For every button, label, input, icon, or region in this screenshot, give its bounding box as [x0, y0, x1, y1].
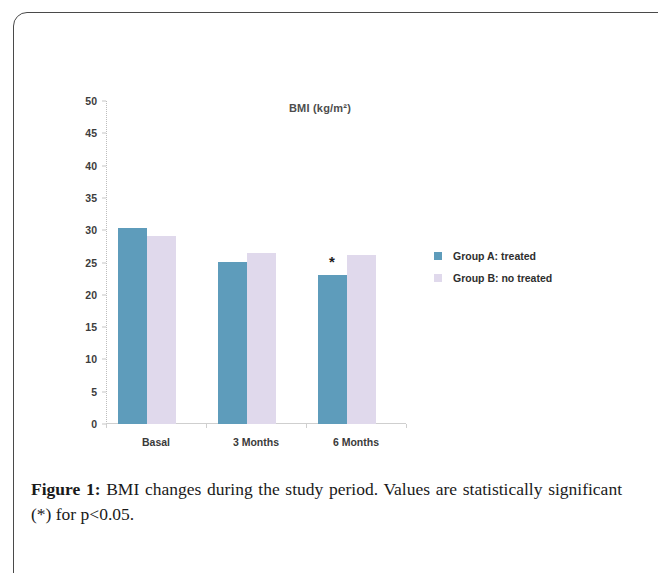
- y-axis-tick-label: 5: [91, 386, 97, 398]
- figure-1: BMI (kg/m²) 05101520253035404550 Basal3 …: [0, 0, 658, 573]
- bar-group: 3 Months: [206, 101, 306, 424]
- bar-group: Basal: [106, 101, 206, 424]
- y-axis-tick-label: 15: [85, 321, 97, 333]
- x-axis-tick-mark: [406, 424, 407, 428]
- legend-item: Group A: treated: [434, 245, 552, 267]
- bar-group-b: [147, 236, 176, 424]
- legend-item: Group B: no treated: [434, 267, 552, 289]
- chart-legend: Group A: treatedGroup B: no treated: [434, 245, 552, 289]
- y-axis-tick-label: 25: [85, 257, 97, 269]
- figure-caption-label: Figure 1:: [31, 479, 101, 499]
- bar-group-b: [347, 255, 376, 424]
- bmi-bar-chart: BMI (kg/m²) 05101520253035404550 Basal3 …: [60, 88, 460, 448]
- x-axis-tick-label: 3 Months: [206, 436, 306, 448]
- y-axis-tick-label: 50: [85, 95, 97, 107]
- figure-caption: Figure 1: BMI changes during the study p…: [31, 477, 622, 527]
- bar-group-bars: *: [306, 101, 406, 424]
- significance-asterisk: *: [329, 254, 335, 269]
- bar-group-a: [218, 262, 247, 424]
- legend-item-label: Group B: no treated: [453, 272, 552, 284]
- y-axis-tick-label: 0: [91, 418, 97, 430]
- figure-caption-text: BMI changes during the study period. Val…: [31, 479, 622, 524]
- x-axis-tick-mark: [106, 424, 107, 428]
- y-axis-tick-label: 20: [85, 289, 97, 301]
- x-axis-tick-mark: [206, 424, 207, 428]
- bar-group-bars: [206, 101, 306, 424]
- bar-group-b: [247, 253, 276, 424]
- y-axis-tick-label: 35: [85, 192, 97, 204]
- y-axis-tick-label: 10: [85, 353, 97, 365]
- x-axis-tick-label: 6 Months: [306, 436, 406, 448]
- legend-color-swatch: [434, 274, 442, 282]
- bar-group-a: [318, 275, 347, 424]
- x-axis-tick-mark: [306, 424, 307, 428]
- y-axis-tick-label: 45: [85, 127, 97, 139]
- y-axis-tick-label: 30: [85, 224, 97, 236]
- legend-color-swatch: [434, 252, 442, 260]
- legend-item-label: Group A: treated: [453, 250, 536, 262]
- y-axis-tick-label: 40: [85, 160, 97, 172]
- plot-area: 05101520253035404550 Basal3 Months*6 Mon…: [106, 101, 406, 424]
- bar-group-a: [118, 228, 147, 424]
- bar-group: *6 Months: [306, 101, 406, 424]
- x-axis-tick-label: Basal: [106, 436, 206, 448]
- bar-group-bars: [106, 101, 206, 424]
